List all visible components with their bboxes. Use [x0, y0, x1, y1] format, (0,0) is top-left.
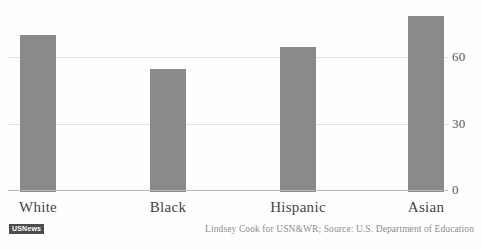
- x-tick-label-asian: Asian: [396, 198, 456, 216]
- x-axis-line: [8, 190, 448, 191]
- gridline-30: [8, 124, 448, 125]
- bar-hispanic[interactable]: [280, 47, 316, 192]
- bar-asian[interactable]: [408, 16, 444, 192]
- x-axis: White Black Hispanic Asian: [8, 198, 448, 220]
- gridline-60: [8, 57, 448, 58]
- bar-chart: 60 30 0 White Black Hispanic Asian USNew…: [0, 0, 482, 250]
- x-tick-label-black: Black: [138, 198, 198, 216]
- chart-footer: USNews Lindsey Cook for USN&WR; Source: …: [0, 222, 482, 242]
- usnews-logo: USNews: [9, 224, 44, 234]
- y-tick-label-30: 30: [452, 117, 465, 130]
- y-tick-label-60: 60: [452, 50, 465, 63]
- y-tick-label-0: 0: [452, 183, 459, 196]
- source-credit-text: Lindsey Cook for USN&WR; Source: U.S. De…: [205, 223, 474, 235]
- y-axis: 60 30 0: [452, 0, 482, 210]
- bar-white[interactable]: [20, 35, 56, 192]
- x-tick-label-white: White: [8, 198, 68, 216]
- plot-area: [8, 6, 448, 192]
- bar-black[interactable]: [150, 69, 186, 192]
- x-tick-label-hispanic: Hispanic: [263, 198, 333, 216]
